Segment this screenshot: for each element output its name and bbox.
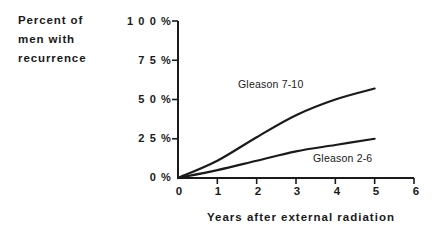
plot-area xyxy=(0,0,439,245)
axis-lines xyxy=(178,21,414,178)
series-curves xyxy=(178,89,375,178)
chart-screenshot: Percent of men with recurrence 1 0 0 % 7… xyxy=(0,0,439,245)
series-curve-1 xyxy=(178,89,375,178)
series-curve-2 xyxy=(178,139,375,178)
